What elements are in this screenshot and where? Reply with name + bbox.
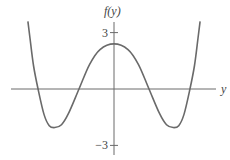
chart: 3−3 y f(y) — [0, 0, 230, 160]
x-axis-label: y — [220, 82, 227, 96]
y-tick-label: −3 — [95, 138, 108, 152]
y-tick-label: 3 — [102, 26, 108, 40]
y-axis-label: f(y) — [104, 4, 121, 18]
